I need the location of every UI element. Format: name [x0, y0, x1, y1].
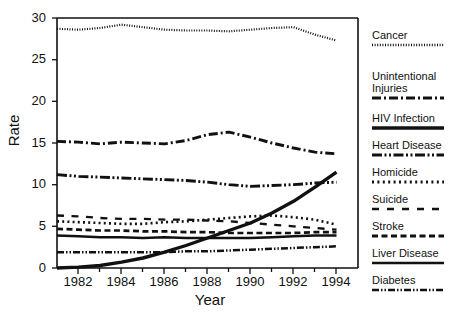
x-tick-label: 1992	[271, 274, 315, 289]
x-tick-label: 1988	[185, 274, 229, 289]
legend-label: Unintentional	[372, 70, 457, 82]
legend-item-hiv-infection: HIV Infection	[372, 112, 457, 131]
legend-swatch-hiv-infection	[372, 125, 450, 131]
legend-label: Homicide	[372, 166, 457, 178]
legend-label: Cancer	[372, 29, 457, 41]
y-tick-label: 25	[12, 51, 46, 66]
legend-item-liver-disease: Liver Disease	[372, 247, 457, 266]
series-line-heart-disease	[57, 175, 337, 187]
x-tick-label: 1994	[314, 274, 358, 289]
legend-item-heart-disease: Heart Disease	[372, 139, 457, 158]
chart-legend: Cancer Unintentional Injuries HIV Infect…	[372, 0, 457, 300]
legend-swatch-stroke	[372, 233, 450, 239]
legend-item-homicide: Homicide	[372, 166, 457, 185]
y-tick-label: 15	[12, 135, 46, 150]
legend-swatch-diabetes	[372, 287, 450, 293]
series-line-liver-disease	[57, 236, 337, 239]
axis-frame	[57, 18, 358, 268]
y-tick-label: 10	[12, 176, 46, 191]
legend-label: Diabetes	[372, 274, 457, 286]
y-tick-label: 5	[12, 218, 46, 233]
x-axis-title: Year	[140, 291, 280, 308]
legend-item-suicide: Suicide	[372, 193, 457, 212]
x-tick-label: 1982	[56, 274, 100, 289]
y-axis-title: Rate	[5, 101, 22, 161]
chart-figure: Rate Year 30 25 20 15 10 5 0 1982 1984 1…	[0, 0, 457, 320]
x-tick-label: 1986	[142, 274, 186, 289]
series-line-cancer	[57, 25, 337, 41]
legend-item-unintentional-injuries: Unintentional Injuries	[372, 70, 457, 101]
series-line-homicide	[57, 216, 337, 225]
series-line-stroke	[57, 229, 337, 233]
y-tick-label: 30	[12, 10, 46, 25]
legend-label: Suicide	[372, 193, 457, 205]
legend-swatch-unintentional-injuries	[372, 95, 450, 101]
legend-label: Heart Disease	[372, 139, 457, 151]
legend-item-diabetes: Diabetes	[372, 274, 457, 293]
legend-label: Stroke	[372, 220, 457, 232]
legend-item-cancer: Cancer	[372, 29, 457, 48]
y-tick-label: 0	[12, 260, 46, 275]
x-tick-label: 1990	[228, 274, 272, 289]
series-line-hiv-infection	[57, 172, 337, 268]
legend-swatch-homicide	[372, 179, 450, 185]
series-line-unintentional-injuries	[57, 132, 337, 154]
legend-label: HIV Infection	[372, 112, 457, 124]
legend-swatch-suicide	[372, 206, 450, 212]
series-line-diabetes	[57, 246, 337, 252]
legend-label-2: Injuries	[372, 82, 457, 94]
legend-swatch-cancer	[372, 42, 450, 48]
legend-label: Liver Disease	[372, 247, 457, 259]
legend-swatch-liver-disease	[372, 260, 450, 266]
data-series-layer	[57, 25, 337, 268]
y-tick-label: 20	[12, 93, 46, 108]
legend-swatch-heart-disease	[372, 152, 450, 158]
x-tick-label: 1984	[99, 274, 143, 289]
legend-item-stroke: Stroke	[372, 220, 457, 239]
